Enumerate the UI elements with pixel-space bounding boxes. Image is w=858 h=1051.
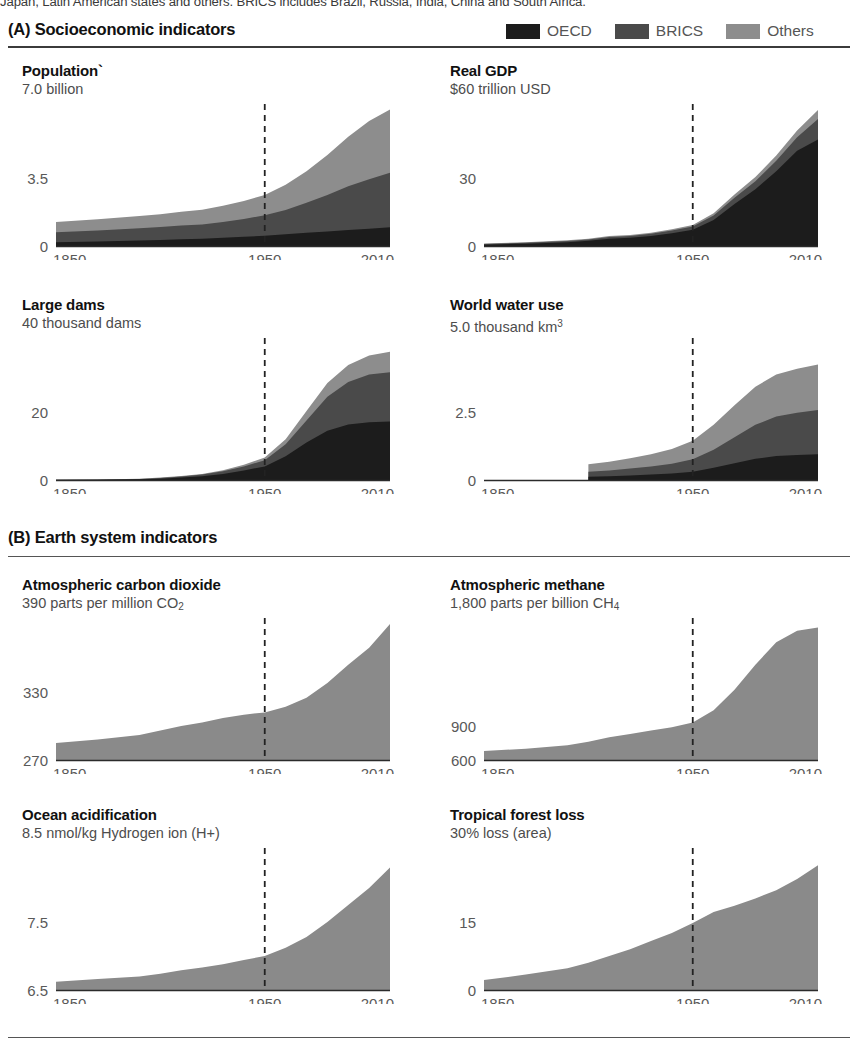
area-atmospheric-co2 [56,624,390,760]
panel-population-title: Population` [22,62,103,79]
plot-areas-atmospheric-methane [484,627,818,760]
co2-sub-index: 2 [178,601,184,612]
x-tick-label-population-1950: 1950 [248,251,281,260]
chart-svg-tropical-forest-loss: 015185019502010 [428,844,858,1004]
panel-world-water-use-subtitle: 5.0 thousand km3 [450,315,563,336]
x-tick-label-large-dams-2010: 2010 [361,485,394,494]
panel-atmospheric-co2-subtitle: 390 parts per million CO2 [22,595,221,615]
chart-atmospheric-methane: 600900185019502010 [428,614,858,774]
x-tick-label-population-2010: 2010 [361,251,394,260]
figure-bottom-rule [8,1037,850,1038]
ch4-sub-main: 1,800 parts per billion CH [450,595,614,611]
co2-sub-main: 390 parts per million CO [22,595,178,611]
caption-top-clipped: Japan, Latin American states and others.… [0,0,858,10]
plot-areas-tropical-forest-loss [484,865,818,990]
panel-atmospheric-co2-title: Atmospheric carbon dioxide [22,576,221,593]
panel-real-gdp-subtitle: $60 trillion USD [450,81,551,98]
legend-swatch-others [726,24,760,39]
panel-ocean-acidification: Ocean acidification 8.5 nmol/kg Hydrogen… [22,806,220,842]
x-tick-label-ocean-acidification-1950: 1950 [248,995,281,1004]
chart-svg-real-gdp: 030185019502010 [428,100,858,260]
x-tick-label-real-gdp-1950: 1950 [676,251,709,260]
chart-large-dams: 020185019502010 [0,334,430,494]
caption-top-text: Japan, Latin American states and others.… [0,0,858,10]
legend-label-brics: BRICS [656,22,703,40]
x-tick-label-real-gdp-1850: 1850 [481,251,514,260]
panel-world-water-use-title: World water use [450,296,563,313]
area-tropical-forest-loss [484,865,818,990]
legend-swatch-brics [615,24,649,39]
y-tick-label-world-water-use-2.5: 2.5 [455,404,476,421]
x-tick-label-atmospheric-methane-2010: 2010 [789,765,822,774]
section-a-title: (A) Socioeconomic indicators [8,20,235,43]
plot-areas-real-gdp [484,110,818,246]
x-tick-label-world-water-use-1950: 1950 [676,485,709,494]
chart-svg-world-water-use: 02.5185019502010 [428,334,858,494]
y-tick-label-population-3.5: 3.5 [27,170,48,187]
chart-atmospheric-co2: 270330185019502010 [0,614,430,774]
panel-population-subtitle: 7.0 billion [22,81,103,98]
panel-world-water-use: World water use 5.0 thousand km3 [450,296,563,336]
legend-item-oecd: OECD [506,22,592,40]
chart-ocean-acidification: 6.57.5185019502010 [0,844,430,1004]
x-tick-label-ocean-acidification-1850: 1850 [53,995,86,1004]
x-tick-label-large-dams-1950: 1950 [248,485,281,494]
legend: OECD BRICS Others [506,22,814,40]
y-tick-label-atmospheric-methane-600: 600 [451,752,476,769]
x-tick-label-ocean-acidification-2010: 2010 [361,995,394,1004]
panel-large-dams: Large dams 40 thousand dams [22,296,141,332]
panel-atmospheric-methane-title: Atmospheric methane [450,576,619,593]
legend-item-others: Others [726,22,814,40]
y-tick-label-atmospheric-co2-270: 270 [23,752,48,769]
chart-svg-atmospheric-methane: 600900185019502010 [428,614,858,774]
x-tick-label-atmospheric-methane-1950: 1950 [676,765,709,774]
legend-label-oecd: OECD [547,22,592,40]
legend-label-others: Others [767,22,814,40]
y-tick-label-large-dams-0: 0 [40,472,48,489]
x-tick-label-atmospheric-co2-1850: 1850 [53,765,86,774]
chart-svg-large-dams: 020185019502010 [0,334,430,494]
y-tick-label-atmospheric-co2-330: 330 [23,684,48,701]
y-tick-label-world-water-use-0: 0 [468,472,476,489]
plot-areas-large-dams [56,352,390,480]
x-tick-label-atmospheric-co2-2010: 2010 [361,765,394,774]
figure-root: Japan, Latin American states and others.… [0,0,858,1051]
legend-swatch-oecd [506,24,540,39]
area-ocean-acidification [56,868,390,990]
y-tick-label-atmospheric-methane-900: 900 [451,718,476,735]
panel-tropical-forest-loss: Tropical forest loss 30% loss (area) [450,806,585,842]
x-tick-label-real-gdp-2010: 2010 [789,251,822,260]
chart-world-water-use: 02.5185019502010 [428,334,858,494]
panel-atmospheric-methane: Atmospheric methane 1,800 parts per bill… [450,576,619,615]
area-real-gdp-oecd [484,139,818,246]
plot-areas-population [56,110,390,246]
panel-real-gdp: Real GDP $60 trillion USD [450,62,551,98]
x-tick-label-large-dams-1850: 1850 [53,485,86,494]
panel-atmospheric-methane-subtitle: 1,800 parts per billion CH4 [450,595,619,615]
chart-real-gdp: 030185019502010 [428,100,858,260]
y-tick-label-tropical-forest-loss-0: 0 [468,982,476,999]
x-tick-label-world-water-use-1850: 1850 [481,485,514,494]
x-tick-label-atmospheric-methane-1850: 1850 [481,765,514,774]
panel-ocean-acidification-title: Ocean acidification [22,806,220,823]
chart-population: 03.5185019502010 [0,100,430,260]
x-tick-label-tropical-forest-loss-2010: 2010 [789,995,822,1004]
panel-atmospheric-co2: Atmospheric carbon dioxide 390 parts per… [22,576,221,615]
section-a-rule [8,46,850,48]
section-b-header: (B) Earth system indicators [8,528,850,551]
panel-tropical-forest-loss-subtitle: 30% loss (area) [450,825,585,842]
y-tick-label-ocean-acidification-6.5: 6.5 [27,982,48,999]
chart-svg-population: 03.5185019502010 [0,100,430,260]
panel-population: Population` 7.0 billion [22,62,103,98]
x-tick-label-tropical-forest-loss-1950: 1950 [676,995,709,1004]
legend-item-brics: BRICS [615,22,703,40]
chart-svg-ocean-acidification: 6.57.5185019502010 [0,844,430,1004]
panel-tropical-forest-loss-title: Tropical forest loss [450,806,585,823]
ch4-sub-index: 4 [614,601,620,612]
panel-large-dams-title: Large dams [22,296,141,313]
chart-svg-atmospheric-co2: 270330185019502010 [0,614,430,774]
plot-areas-atmospheric-co2 [56,624,390,760]
x-tick-label-population-1850: 1850 [53,251,86,260]
plot-areas-world-water-use [588,364,818,480]
plot-areas-ocean-acidification [56,868,390,990]
